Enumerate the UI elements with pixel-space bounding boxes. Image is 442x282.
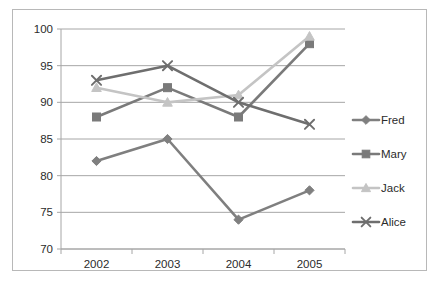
x-axis-tick-labels: 2002200320042005 — [84, 258, 323, 270]
series-line-jack — [97, 36, 310, 102]
y-axis-tick-label: 90 — [40, 96, 53, 108]
legend-label-fred: Fred — [381, 114, 405, 126]
x-axis-tick-label: 2002 — [84, 258, 110, 270]
data-point-triangle-marker — [305, 32, 315, 41]
y-axis-tick-labels: 707580859095100 — [34, 23, 53, 255]
y-axis-tick-label: 75 — [40, 206, 53, 218]
y-axis-tick-marks — [57, 29, 61, 249]
x-axis-tick-label: 2005 — [297, 258, 323, 270]
data-point-square-marker — [93, 113, 101, 121]
data-point-square-marker — [306, 40, 314, 48]
series-fred — [92, 134, 314, 224]
series-jack — [92, 32, 315, 107]
y-axis-tick-label: 100 — [34, 23, 53, 35]
y-axis-tick-label: 85 — [40, 133, 53, 145]
data-point-square-marker — [235, 113, 243, 121]
x-axis-tick-label: 2004 — [226, 258, 252, 270]
series-line-fred — [97, 139, 310, 220]
data-point-diamond-marker — [362, 116, 371, 125]
series-line-mary — [97, 44, 310, 117]
legend-item-jack[interactable]: Jack — [353, 182, 405, 194]
data-series-group — [92, 32, 315, 225]
series-alice — [92, 61, 314, 129]
legend-label-mary: Mary — [381, 148, 407, 160]
y-axis-tick-label: 80 — [40, 170, 53, 182]
x-axis — [61, 249, 345, 254]
data-point-diamond-marker — [92, 156, 101, 165]
legend-item-fred[interactable]: Fred — [353, 114, 405, 126]
chart-frame: 707580859095100 2002200320042005 FredMar… — [12, 9, 427, 271]
data-point-square-marker — [362, 150, 370, 158]
data-point-square-marker — [164, 84, 172, 92]
chart-legend: FredMaryJackAlice — [353, 114, 407, 228]
data-point-diamond-marker — [305, 186, 314, 195]
series-mary — [93, 40, 314, 121]
legend-item-mary[interactable]: Mary — [353, 148, 407, 160]
x-axis-tick-label: 2003 — [155, 258, 181, 270]
y-axis-tick-label: 95 — [40, 60, 53, 72]
legend-label-jack: Jack — [381, 182, 405, 194]
line-chart: 707580859095100 2002200320042005 FredMar… — [13, 10, 428, 272]
gridlines — [61, 29, 345, 249]
legend-item-alice[interactable]: Alice — [353, 216, 406, 228]
legend-label-alice: Alice — [381, 216, 406, 228]
y-axis-tick-label: 70 — [40, 243, 53, 255]
